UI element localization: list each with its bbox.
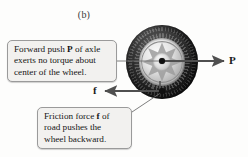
callout-friction-line3: wheel backward. bbox=[44, 134, 126, 145]
physics-force-diagram: (b) bbox=[0, 0, 248, 157]
road-contact-point-marker bbox=[159, 88, 165, 94]
tire-valve-stem bbox=[159, 81, 161, 88]
callout-friction-line2: road pushes the bbox=[44, 122, 126, 133]
callout-push-line1: Forward push P of axle bbox=[14, 44, 111, 55]
callout-push-line3: center of the wheel. bbox=[14, 67, 111, 78]
callout-friction-line1: Friction force f of bbox=[44, 111, 126, 122]
callout-push-line2: exerts no torque about bbox=[14, 55, 111, 66]
panel-label: (b) bbox=[64, 9, 104, 20]
force-label-f: f bbox=[93, 84, 97, 96]
callout-forward-push: Forward push P of axle exerts no torque … bbox=[7, 40, 117, 82]
force-label-P: P bbox=[229, 54, 236, 66]
callout-friction-force: Friction force f of road pushes the whee… bbox=[37, 107, 132, 149]
wheel-center-point-marker bbox=[159, 58, 165, 64]
